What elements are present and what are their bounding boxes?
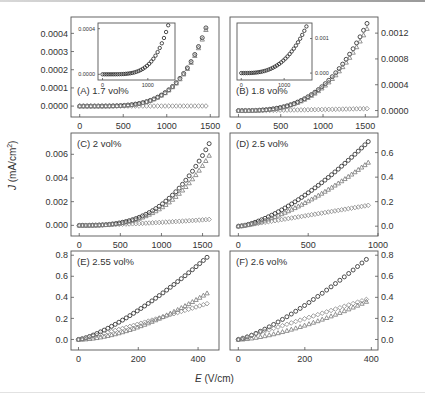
- x-tick-label: 0: [236, 121, 241, 131]
- y-tick-label: 0.0004: [381, 80, 409, 90]
- y-tick-label: 0.0001: [40, 83, 68, 93]
- x-tick-label: 0: [236, 240, 241, 250]
- y-tick-label: 0.0000: [381, 106, 409, 116]
- x-tick-label: 500: [301, 240, 316, 250]
- panel-label: (D) 2.5 vol%: [236, 138, 289, 149]
- y-tick-label: 0.001: [315, 35, 329, 41]
- y-tick-label: 0.6: [55, 271, 68, 281]
- y-tick-label: 0.0: [55, 335, 68, 345]
- y-tick-label: 0.006: [45, 149, 68, 159]
- y-tick-label: 0.0004: [40, 29, 68, 39]
- y-tick-label: 0.4: [381, 172, 394, 182]
- y-tick-label: 0.2: [381, 314, 394, 324]
- y-tick-label: 0.2: [55, 314, 68, 324]
- x-tick-label: 1000: [368, 240, 388, 250]
- x-tick-label: 0: [240, 82, 243, 88]
- x-tick-label: 1000: [157, 121, 177, 131]
- y-tick-label: 0.0012: [381, 28, 409, 38]
- x-tick-label: 200: [297, 354, 312, 364]
- y-tick-label: 0.002: [45, 197, 68, 207]
- x-tick-label: 0: [236, 354, 241, 364]
- y-tick-label: 0.8: [55, 250, 68, 260]
- x-tick-label: 500: [273, 121, 288, 131]
- panel-label: (E) 2.55 vol%: [77, 256, 135, 267]
- x-tick-label: 0: [76, 354, 81, 364]
- y-tick-label: 0.000: [315, 70, 329, 76]
- panel-E: 02004000.00.20.40.60.8(E) 2.55 vol%: [55, 250, 219, 364]
- y-tick-label: 0.0004: [78, 26, 95, 32]
- y-tick-label: 0.0002: [40, 65, 68, 75]
- panel-F: 02004000.00.20.40.60.8(F) 2.6 vol%: [230, 250, 394, 364]
- x-tick-label: 1500: [355, 121, 375, 131]
- y-tick-label: 0.0003: [40, 47, 68, 57]
- x-tick-label: 500: [116, 121, 131, 131]
- x-tick-label: 1500: [193, 240, 213, 250]
- panel-label: (F) 2.6 vol%: [236, 256, 288, 267]
- y-tick-label: 0.0000: [78, 71, 95, 77]
- panel-D: 050010000.00.20.40.6(D) 2.5 vol%: [230, 133, 394, 250]
- panel-C: 0500100015000.0000.0020.0040.006(C) 2 vo…: [45, 133, 219, 250]
- x-tick-label: 1000: [142, 82, 154, 88]
- x-tick-label: 0: [77, 240, 82, 250]
- y-tick-label: 0.8: [381, 250, 394, 260]
- x-tick-label: 1000: [151, 240, 171, 250]
- x-tick-label: 1000: [278, 82, 290, 88]
- x-tick-label: 1000: [313, 121, 333, 131]
- x-tick-label: 0: [101, 82, 104, 88]
- panel-label: (C) 2 vol%: [77, 138, 122, 149]
- x-tick-label: 0: [77, 121, 82, 131]
- x-axis-label: E (V/cm): [195, 373, 234, 384]
- y-tick-label: 0.0008: [381, 54, 409, 64]
- y-tick-label: 0.6: [381, 148, 394, 158]
- y-tick-label: 0.4: [55, 292, 68, 302]
- y-tick-label: 0.000: [45, 220, 68, 230]
- x-tick-label: 400: [364, 354, 379, 364]
- y-tick-label: 0.4: [381, 292, 394, 302]
- x-tick-label: 200: [131, 354, 146, 364]
- y-tick-label: 0.2: [381, 197, 394, 207]
- x-tick-label: 1500: [200, 121, 220, 131]
- y-tick-label: 0.0: [381, 335, 394, 345]
- x-tick-label: 500: [113, 240, 128, 250]
- figure-canvas: 0500100015000.00000.00010.00020.00030.00…: [0, 0, 425, 396]
- y-tick-label: 0.004: [45, 173, 68, 183]
- y-tick-label: 0.0: [381, 221, 394, 231]
- y-axis-label: J (mA/cm2): [6, 141, 18, 190]
- y-tick-label: 0.6: [381, 271, 394, 281]
- x-tick-label: 400: [191, 354, 206, 364]
- y-tick-label: 0.0000: [40, 101, 68, 111]
